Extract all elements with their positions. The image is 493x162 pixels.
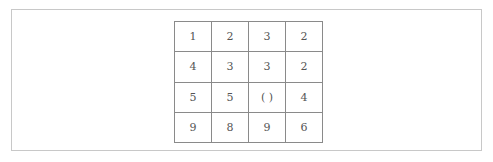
grid-row: 4 3 3 2 [175, 52, 323, 82]
grid-cell: 2 [286, 22, 323, 52]
grid-cell: 3 [249, 52, 286, 82]
grid-cell: 5 [212, 82, 249, 112]
grid-cell: 4 [175, 52, 212, 82]
grid-cell: 9 [249, 112, 286, 142]
grid-cell: 2 [286, 52, 323, 82]
number-grid: 1 2 3 2 4 3 3 2 5 5 ( ) 4 9 8 9 6 [174, 21, 323, 143]
grid-row: 5 5 ( ) 4 [175, 82, 323, 112]
grid-cell: 5 [175, 82, 212, 112]
grid-cell: 9 [175, 112, 212, 142]
grid-cell: 8 [212, 112, 249, 142]
grid-cell: 2 [212, 22, 249, 52]
grid-cell: 3 [249, 22, 286, 52]
grid-cell: 1 [175, 22, 212, 52]
grid-row: 9 8 9 6 [175, 112, 323, 142]
grid-cell: 3 [212, 52, 249, 82]
blank-answer-cell: ( ) [249, 82, 286, 112]
grid-cell: 6 [286, 112, 323, 142]
grid-cell: 4 [286, 82, 323, 112]
grid-row: 1 2 3 2 [175, 22, 323, 52]
